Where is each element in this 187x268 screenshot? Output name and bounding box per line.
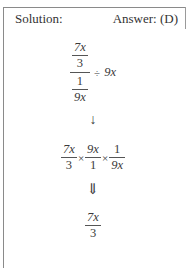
- divide-operator: ÷: [93, 67, 101, 79]
- result-expression: 7x 3: [0, 210, 186, 241]
- fraction-2-num: 9x: [85, 142, 101, 157]
- fraction-3: 1 9x: [109, 142, 125, 173]
- compound-fraction: 7x 3 1 9x: [70, 40, 90, 105]
- fraction-1-num: 7x: [61, 142, 77, 157]
- step1-expression: 7x 3 1 9x ÷ 9x: [0, 40, 186, 105]
- fraction-2: 9x 1: [85, 142, 101, 173]
- times-operator: ×: [77, 152, 85, 164]
- lower-fraction: 1 9x: [72, 74, 88, 105]
- result-denominator: 3: [85, 225, 101, 241]
- divisor: 9x: [104, 65, 116, 79]
- fraction-1-den: 3: [61, 157, 77, 173]
- upper-denominator: 3: [72, 55, 88, 71]
- lower-numerator: 1: [72, 74, 88, 89]
- answer-label: Answer: (D): [113, 11, 178, 27]
- fraction-2-den: 1: [85, 157, 101, 173]
- upper-fraction: 7x 3: [72, 40, 88, 71]
- right-border-fragment: [185, 7, 187, 29]
- step2-expression: 7x 3 × 9x 1 × 1 9x: [0, 142, 186, 173]
- upper-numerator: 7x: [72, 40, 88, 55]
- solution-label: Solution:: [15, 11, 63, 27]
- fraction-1: 7x 3: [61, 142, 77, 173]
- fraction-3-num: 1: [109, 142, 125, 157]
- times-operator: ×: [101, 152, 109, 164]
- fraction-3-den: 9x: [109, 157, 125, 173]
- result-numerator: 7x: [85, 210, 101, 225]
- down-arrow-icon: ↓: [0, 112, 186, 128]
- result-fraction: 7x 3: [85, 210, 101, 241]
- lower-denominator: 9x: [72, 89, 88, 105]
- double-down-arrow-icon: ⇓: [0, 180, 186, 198]
